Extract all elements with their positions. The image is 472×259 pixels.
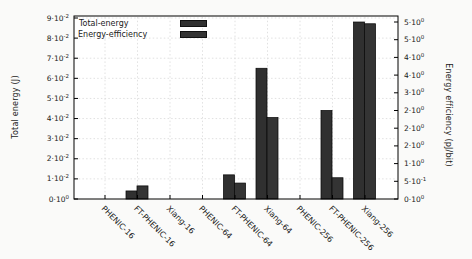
legend-swatch-energy-efficiency [180,31,207,38]
right-tick-label: 2·100 [404,140,425,150]
bar-energy-efficiency-ft-phenic-256 [332,178,343,199]
x-tick-label-phenic-16: PHENIC-16 [100,204,137,241]
right-tick-label: 0·100 [404,194,425,204]
left-tick-label: 9·10-2 [47,13,69,23]
plot-area [74,16,398,199]
left-axis-title: Total energy (J) [11,75,20,138]
left-tick-label: 1·10-2 [47,173,69,183]
right-tick-label: 5·100 [404,17,425,27]
left-tick-label: 0·100 [49,194,70,204]
bar-total-energy-xiang-64 [256,68,267,199]
bar-total-energy-ft-phenic-16 [126,191,137,199]
right-tick-label: 2·100 [404,123,425,133]
left-tick-label: 7·10-2 [47,53,69,63]
right-tick-label: 5·10-1 [404,176,426,186]
left-tick-label: 6·10-2 [47,73,69,83]
left-tick-label: 4·10-2 [47,113,69,123]
x-tick-label-xiang-64: Xiang-64 [262,204,294,236]
left-tick-label: 3·10-2 [47,133,69,143]
legend-swatch-total-energy [180,20,207,27]
bar-energy-efficiency-xiang-256 [365,24,376,199]
bar-chart: 0·1001·10-22·10-23·10-24·10-25·10-26·10-… [0,0,472,259]
right-tick-label: 3·100 [404,87,425,97]
bar-total-energy-ft-phenic-64 [224,175,235,199]
right-tick-label: 4·100 [404,52,425,62]
x-tick-label-xiang-256: Xiang-256 [360,204,395,239]
legend-label-energy-efficiency: Energy-efficiency [78,30,147,39]
bar-energy-efficiency-ft-phenic-64 [235,183,246,199]
x-tick-label-phenic-64: PHENIC-64 [197,204,234,241]
right-tick-label: 4·100 [404,70,425,80]
left-tick-label: 2·10-2 [47,153,69,163]
chart-figure: 0·1001·10-22·10-23·10-24·10-25·10-26·10-… [0,0,472,259]
legend-label-total-energy: Total-energy [79,19,128,28]
right-tick-label: 5·100 [404,34,425,44]
right-tick-label: 2·100 [404,105,425,115]
bar-total-energy-ft-phenic-256 [321,111,332,199]
bar-total-energy-xiang-256 [354,22,365,199]
bar-energy-efficiency-ft-phenic-16 [137,186,148,199]
left-tick-label: 5·10-2 [47,93,69,103]
x-tick-label-xiang-16: Xiang-16 [165,204,197,236]
left-tick-label: 8·10-2 [47,33,69,43]
right-tick-label: 1·100 [404,158,425,168]
right-axis-title: Energy efficiency (pJ/bit) [444,63,453,167]
bar-energy-efficiency-xiang-64 [267,118,278,199]
